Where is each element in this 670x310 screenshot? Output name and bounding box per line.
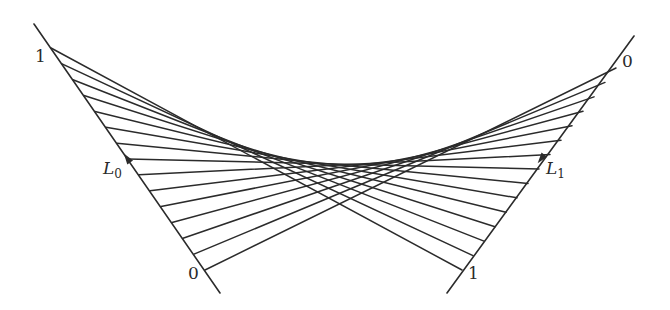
label-L0-param-0: 0: [188, 265, 199, 282]
label-L1: L1: [546, 160, 565, 180]
ruling-segment: [172, 111, 583, 222]
ruling-segment: [194, 82, 605, 254]
label-L1-name: L: [546, 158, 557, 178]
ruling-segment: [106, 127, 517, 198]
label-L1-param-0: 0: [622, 53, 633, 70]
ruling-segment: [183, 97, 594, 238]
label-L1-param-1: 1: [468, 265, 479, 282]
label-L0-param-1: 1: [35, 48, 46, 65]
diagram-canvas: [0, 0, 670, 310]
ruled-surface-diagram: 1 0 0 1 L0 L1: [0, 0, 670, 310]
label-L1-subscript: 1: [557, 167, 565, 181]
ruling-segment: [150, 140, 561, 191]
label-L0-subscript: 0: [114, 167, 122, 181]
ruling-segments: [51, 48, 616, 270]
label-L0: L0: [103, 160, 122, 180]
ruling-segment: [84, 96, 495, 227]
line-L1: [447, 36, 634, 293]
label-L0-name: L: [103, 158, 114, 178]
